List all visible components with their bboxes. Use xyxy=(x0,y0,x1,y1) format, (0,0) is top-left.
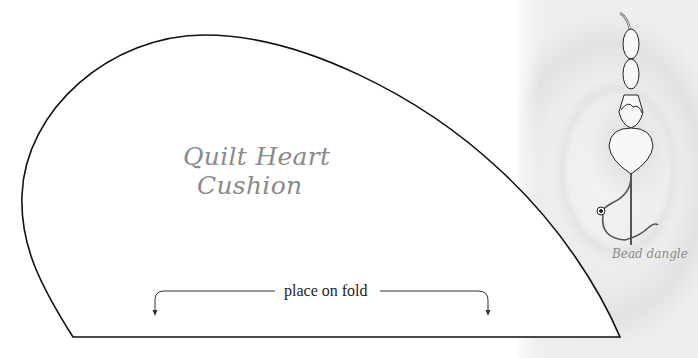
title-line-2: Cushion xyxy=(183,171,330,200)
place-on-fold-label: place on fold xyxy=(278,282,374,300)
bead-dangle-icon xyxy=(597,13,658,245)
pattern-title: Quilt Heart Cushion xyxy=(183,142,330,200)
title-line-1: Quilt Heart xyxy=(183,142,330,171)
bead-dangle-caption: Bead dangle xyxy=(612,247,688,261)
pattern-outline xyxy=(0,0,698,358)
